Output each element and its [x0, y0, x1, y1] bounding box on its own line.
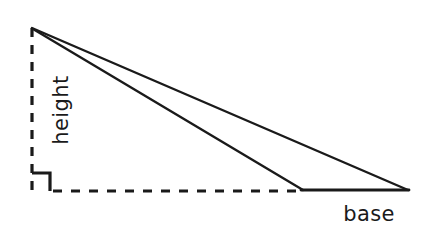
triangle-figure-svg: height base	[0, 0, 429, 229]
height-label: height	[49, 75, 73, 144]
base-label: base	[343, 202, 395, 226]
geometry-diagram: height base	[0, 0, 429, 229]
